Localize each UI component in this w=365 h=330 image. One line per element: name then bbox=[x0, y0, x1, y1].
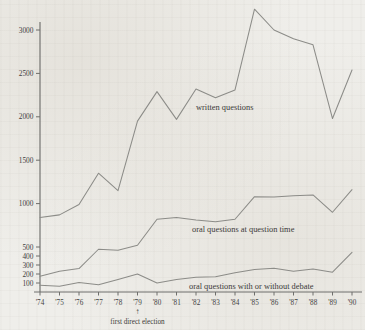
x-axis-tick-label: '78 bbox=[114, 299, 123, 307]
x-axis-tick-label: '85 bbox=[250, 299, 259, 307]
x-axis-tick-label: '77 bbox=[94, 299, 103, 307]
series-line-0 bbox=[40, 9, 352, 217]
y-axis-tick-label: 1000 bbox=[19, 199, 34, 208]
y-axis-tick-label: 3000 bbox=[19, 26, 34, 35]
x-axis-tick-label: '79 bbox=[133, 299, 142, 307]
line-chart-canvas: 10020030040050010001500200025003000'74'7… bbox=[0, 0, 365, 330]
series-label-2: oral questions with or without debate bbox=[189, 282, 314, 291]
x-axis-tick-label: '89 bbox=[328, 299, 337, 307]
annotation-arrow-icon: ↑ bbox=[136, 307, 140, 316]
x-axis-tick-label: '76 bbox=[75, 299, 84, 307]
y-axis-tick-label: 2500 bbox=[19, 69, 34, 78]
x-axis-tick-label: '87 bbox=[289, 299, 298, 307]
y-axis-tick-label: 1500 bbox=[19, 156, 34, 165]
x-axis-tick-label: '75 bbox=[55, 299, 64, 307]
x-axis-tick-label: '81 bbox=[172, 299, 181, 307]
y-axis-tick-label: 500 bbox=[22, 243, 33, 252]
y-axis-tick-label: 400 bbox=[22, 252, 33, 261]
x-axis-tick-label: '80 bbox=[153, 299, 162, 307]
x-axis-tick-label: '83 bbox=[211, 299, 220, 307]
y-axis-tick-label: 200 bbox=[22, 270, 33, 279]
y-axis-tick-label: 300 bbox=[22, 261, 33, 270]
x-axis-tick-label: '84 bbox=[231, 299, 240, 307]
x-axis-tick-label: '74 bbox=[36, 299, 45, 307]
x-axis-tick-label: '82 bbox=[192, 299, 201, 307]
y-axis-tick-label: 100 bbox=[22, 279, 33, 288]
x-axis-tick-label: '86 bbox=[270, 299, 279, 307]
series-label-0: written questions bbox=[196, 103, 253, 112]
series-label-1: oral questions at question time bbox=[192, 225, 295, 234]
x-axis-tick-label: '90 bbox=[348, 299, 357, 307]
y-axis-tick-label: 2000 bbox=[19, 112, 34, 121]
annotation-label: first direct election bbox=[110, 318, 165, 326]
chart-figure: 10020030040050010001500200025003000'74'7… bbox=[0, 0, 365, 330]
x-axis-tick-label: '88 bbox=[309, 299, 318, 307]
